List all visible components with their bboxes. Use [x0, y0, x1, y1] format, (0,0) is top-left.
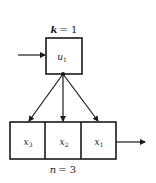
cell-x1: x1 — [95, 137, 104, 148]
diagram-canvas: k= 1 u1 x3 x2 x1 n= 3 — [0, 0, 156, 183]
cell-x2: x2 — [60, 137, 69, 148]
cell-x3: x3 — [24, 137, 33, 148]
top-label: k= 1 — [51, 24, 78, 35]
bottom-label: n= 3 — [50, 164, 76, 175]
arrow-to-x3 — [29, 74, 63, 121]
arrow-to-x1 — [63, 74, 98, 121]
top-box-label: u1 — [57, 52, 67, 63]
